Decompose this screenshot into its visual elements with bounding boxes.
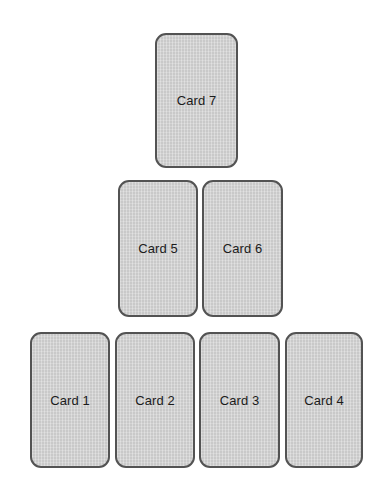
- card-6[interactable]: Card 6: [202, 180, 283, 317]
- card-3-label: Card 3: [220, 394, 260, 407]
- card-4[interactable]: Card 4: [285, 332, 363, 468]
- card-7-label: Card 7: [177, 94, 217, 107]
- card-5[interactable]: Card 5: [118, 180, 198, 317]
- card-4-label: Card 4: [304, 394, 344, 407]
- card-2-label: Card 2: [135, 394, 175, 407]
- card-5-label: Card 5: [138, 242, 178, 255]
- card-1-label: Card 1: [50, 394, 90, 407]
- card-7[interactable]: Card 7: [155, 33, 238, 168]
- card-3[interactable]: Card 3: [199, 332, 280, 468]
- card-1[interactable]: Card 1: [30, 332, 110, 468]
- card-pyramid-canvas: Card 7 Card 5 Card 6 Card 1 Card 2 Card …: [0, 0, 392, 490]
- card-6-label: Card 6: [223, 242, 263, 255]
- card-2[interactable]: Card 2: [115, 332, 195, 468]
